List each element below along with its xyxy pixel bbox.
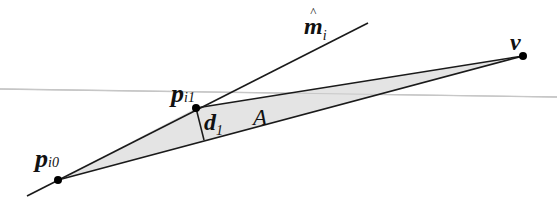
label-p-i1: pi1 (171, 81, 195, 107)
diagram-canvas (0, 0, 557, 210)
label-v: v (510, 30, 521, 54)
geometry-diagram: ^mi v pi1 d1 A pi0 (0, 0, 557, 210)
label-p-i0: pi0 (35, 146, 59, 172)
point-p-i0 (54, 176, 62, 184)
edge-p-i0-to-v (58, 56, 523, 180)
label-area-a: A (253, 106, 267, 129)
label-d1: d1 (204, 110, 223, 134)
label-m-hat: ^mi (304, 14, 327, 38)
